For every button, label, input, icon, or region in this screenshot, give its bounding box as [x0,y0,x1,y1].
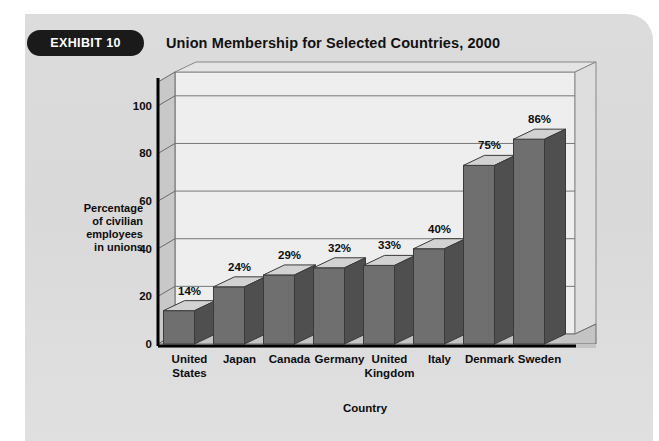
x-tick-label: United [372,353,408,365]
y-axis-title: Percentageof civilianemployeesin unions [84,202,144,253]
exhibit-title: Union Membership for Selected Countries,… [166,35,500,51]
y-axis-title-line: in unions [94,241,143,253]
x-tick-labels-group: UnitedStatesJapanCanadaGermanyUnitedKing… [172,353,562,379]
bar-front-face [214,287,245,344]
plot-top-face [175,62,596,72]
bar-side-face [345,258,366,344]
chart-svg: 020406080100 UnitedStatesJapanCanadaGerm… [25,60,653,441]
bar-front-face [364,265,395,344]
bar [264,265,316,344]
x-tick-label: Kingdom [365,367,415,379]
bar-front-face [264,275,295,344]
bar-value-label: 24% [228,261,251,273]
bar-value-label: 14% [178,285,201,297]
x-tick-label: Germany [315,353,365,365]
plot-left-wall [158,72,175,344]
y-tick-label: 100 [133,100,152,112]
bar-value-label: 75% [478,139,501,151]
y-axis-title-line: Percentage [84,202,143,214]
bar [464,155,516,344]
bar-front-face [414,249,445,344]
y-tick-label: 80 [139,147,152,159]
bar [314,258,366,344]
bar-side-face [395,255,416,344]
bar-value-label: 33% [378,239,401,251]
x-tick-label: Denmark [465,353,515,365]
bar-value-label: 40% [428,223,451,235]
bar-front-face [464,165,495,344]
x-axis-title: Country [343,402,388,414]
plot-right-face [575,62,596,334]
bar-value-label: 32% [328,242,351,254]
y-tick-label: 20 [139,290,152,302]
x-tick-label: Canada [269,353,311,365]
bar [214,277,266,344]
bar-side-face [295,265,316,344]
y-tick-label: 0 [146,338,152,350]
bar-front-face [164,311,195,344]
exhibit-number-badge: EXHIBIT 10 [27,30,144,56]
y-axis-title-line: employees [86,228,143,240]
exhibit-panel: EXHIBIT 10 Union Membership for Selected… [25,14,653,441]
bar-front-face [314,268,345,344]
bar-side-face [245,277,266,344]
bar-side-face [495,155,516,344]
bar-value-label: 86% [528,113,551,125]
x-tick-label: Japan [223,353,256,365]
x-tick-label: Italy [428,353,452,365]
bar [514,129,566,344]
bar-value-label: 29% [278,249,301,261]
bar-front-face [514,139,545,344]
y-axis-title-line: of civilian [92,215,143,227]
bar-side-face [445,239,466,344]
bar-side-face [545,129,566,344]
bar [414,239,466,344]
x-tick-label: Sweden [518,353,561,365]
x-tick-label: United [172,353,208,365]
bar [164,301,216,344]
x-tick-label: States [172,367,207,379]
bar [364,255,416,344]
bar-chart: 020406080100 UnitedStatesJapanCanadaGerm… [25,60,653,441]
